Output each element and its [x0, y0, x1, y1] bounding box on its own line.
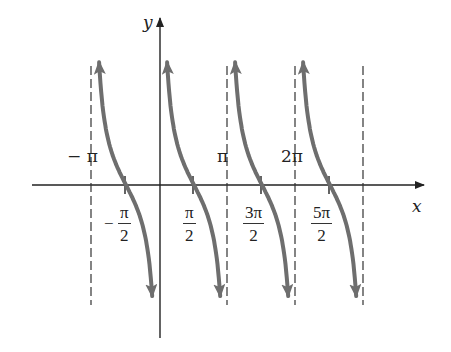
tick-label-neg-pi: − π [67, 148, 98, 165]
tick-label-half-pi: π 2 [183, 204, 196, 244]
cotangent-graph [0, 0, 451, 352]
tick-label-neg-half-pi: − π 2 [118, 204, 131, 244]
tick-label-five-half-pi: 5π 2 [311, 204, 332, 244]
tick-label-pi: π [217, 148, 228, 165]
tick-label-three-half-pi: 3π 2 [243, 204, 264, 244]
tick-label-2pi: 2π [281, 148, 303, 165]
cot-curves [99, 62, 356, 296]
x-axis-label: x [412, 198, 422, 215]
y-axis-label: y [143, 14, 153, 31]
